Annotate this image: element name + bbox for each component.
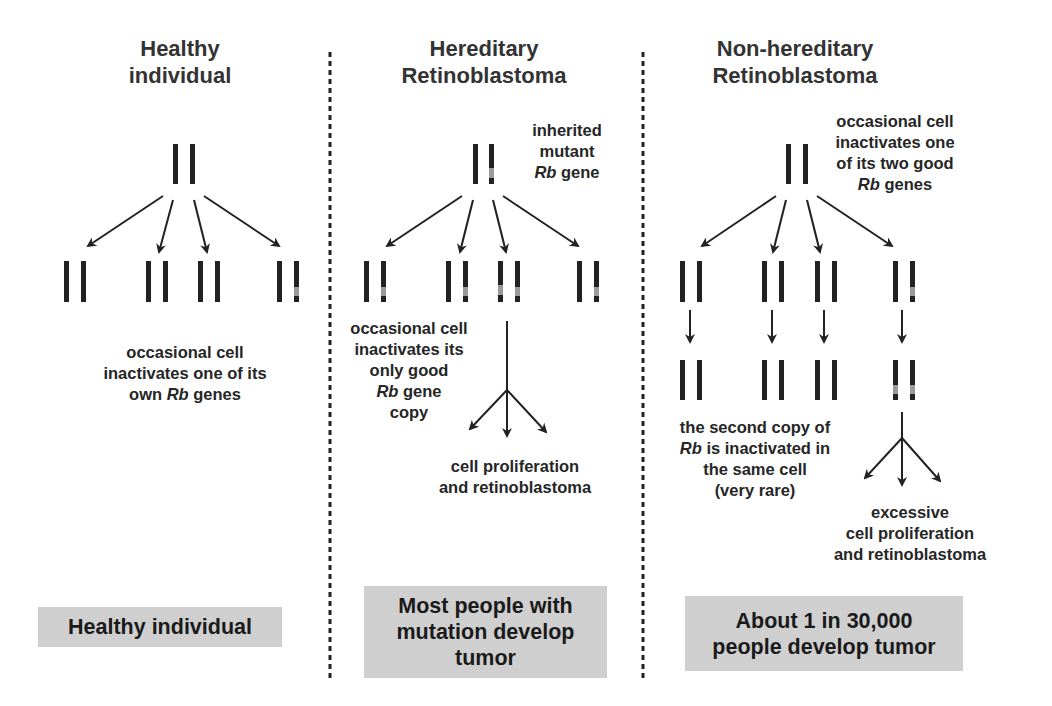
gene-name: Rb <box>680 439 702 457</box>
chromosome-pair-icon-inherited-mutant <box>473 144 494 184</box>
note-line: Rb is inactivated in <box>660 438 850 459</box>
proliferation-branch-icon <box>865 412 940 485</box>
note-line: the second copy of <box>660 417 850 438</box>
note-text: genes <box>189 385 241 403</box>
arrow-icon <box>817 196 892 246</box>
arrow-icon <box>493 200 506 252</box>
note-line: (very rare) <box>660 480 850 501</box>
note-text: is inactivated in <box>702 439 830 457</box>
nonhereditary-second-hit-note: the second copy of Rb is inactivated in … <box>660 417 850 501</box>
note-line: cell proliferation <box>815 523 1005 544</box>
nonhereditary-title: Non-hereditary Retinoblastoma <box>695 35 895 89</box>
gene-name: Rb <box>167 385 189 403</box>
note-line: occasional cell <box>60 342 310 363</box>
summary-line: About 1 in 30,000 <box>712 608 935 634</box>
chromosome-pair-icon <box>64 261 86 302</box>
note-line: cell proliferation <box>420 456 610 477</box>
summary-text: Most people with mutation develop tumor <box>397 593 575 671</box>
hereditary-inherited-note: inherited mutant Rb gene <box>512 120 622 183</box>
note-line: Rb genes <box>820 174 970 195</box>
note-line: and retinoblastoma <box>815 544 1005 565</box>
note-line: inactivates one <box>820 132 970 153</box>
note-line: occasional cell <box>334 318 484 339</box>
hereditary-inactivation-note: occasional cell inactivates its only goo… <box>334 318 484 423</box>
gene-name: Rb <box>858 175 880 193</box>
nonhereditary-outcome: excessive cell proliferation and retinob… <box>815 502 1005 565</box>
title-line: Retinoblastoma <box>384 62 584 89</box>
note-text: genes <box>880 175 932 193</box>
arrow-icon <box>159 200 173 252</box>
chromosome-pair-icon <box>762 360 784 400</box>
note-text: gene <box>556 163 599 181</box>
chromosome-pair-icon-mutated <box>277 261 299 302</box>
healthy-title: Healthy individual <box>80 35 280 89</box>
nonhereditary-first-hit-note: occasional cell inactivates one of its t… <box>820 111 970 195</box>
note-text: own <box>129 385 167 403</box>
summary-line: mutation develop <box>397 619 575 645</box>
note-line: occasional cell <box>820 111 970 132</box>
chromosome-pair-icon <box>786 144 808 184</box>
note-line: mutant <box>512 141 622 162</box>
gene-name: Rb <box>376 382 398 400</box>
healthy-chromosomes <box>64 144 299 302</box>
arrow-icon <box>460 200 473 252</box>
chromosome-pair-icon <box>680 261 702 302</box>
chromosome-pair-icon <box>680 360 702 400</box>
summary-text: About 1 in 30,000 people develop tumor <box>712 608 935 660</box>
summary-text: Healthy individual <box>68 614 252 640</box>
note-line: Rb gene <box>334 381 484 402</box>
title-line: individual <box>80 62 280 89</box>
note-line: inactivates one of its <box>60 363 310 384</box>
retinoblastoma-diagram: Healthy individual occasional cell inact… <box>0 0 1052 706</box>
arrow-icon <box>807 200 820 252</box>
note-line: inactivates its <box>334 339 484 360</box>
note-line: excessive <box>815 502 1005 523</box>
chromosome-pair-icon-mutated <box>446 261 468 302</box>
note-line: inherited <box>512 120 622 141</box>
hereditary-summary-box: Most people with mutation develop tumor <box>364 586 607 678</box>
summary-line: Most people with <box>397 593 575 619</box>
note-line: own Rb genes <box>60 384 310 405</box>
note-line: Rb gene <box>512 162 622 183</box>
arrow-icon <box>88 196 163 246</box>
chromosome-pair-icon <box>173 144 195 184</box>
chromosome-pair-icon-mutated <box>364 261 386 302</box>
chromosome-pair-icon <box>198 261 220 302</box>
summary-line: tumor <box>397 645 575 671</box>
hereditary-title: Hereditary Retinoblastoma <box>384 35 584 89</box>
chromosome-pair-icon <box>146 261 168 302</box>
arrow-icon <box>503 196 578 246</box>
note-line: copy <box>334 402 484 423</box>
chromosome-pair-icon-mutated <box>577 261 599 302</box>
note-line: only good <box>334 360 484 381</box>
title-line: Retinoblastoma <box>695 62 895 89</box>
note-text: gene <box>398 382 441 400</box>
note-line: the same cell <box>660 459 850 480</box>
arrow-icon <box>702 196 776 246</box>
chromosome-pair-icon-double-mutated <box>893 360 915 400</box>
note-line: and retinoblastoma <box>420 477 610 498</box>
chromosome-pair-icon <box>762 261 784 302</box>
summary-line: people develop tumor <box>712 634 935 660</box>
chromosome-pair-icon <box>815 261 837 302</box>
healthy-summary-box: Healthy individual <box>38 607 282 647</box>
arrow-icon <box>204 196 279 246</box>
title-line: Healthy <box>80 35 280 62</box>
note-line: of its two good <box>820 153 970 174</box>
gene-name: Rb <box>534 163 556 181</box>
hereditary-outcome: cell proliferation and retinoblastoma <box>420 456 610 498</box>
title-line: Hereditary <box>384 35 584 62</box>
chromosome-pair-icon-double-mutated <box>498 261 520 302</box>
title-line: Non-hereditary <box>695 35 895 62</box>
arrow-icon <box>194 200 207 252</box>
chromosome-pair-icon <box>815 360 837 400</box>
arrow-icon <box>387 196 462 246</box>
chromosome-pair-icon-mutated <box>893 261 915 302</box>
arrow-icon <box>773 200 786 252</box>
nonhereditary-summary-box: About 1 in 30,000 people develop tumor <box>685 596 963 671</box>
healthy-note: occasional cell inactivates one of its o… <box>60 342 310 405</box>
